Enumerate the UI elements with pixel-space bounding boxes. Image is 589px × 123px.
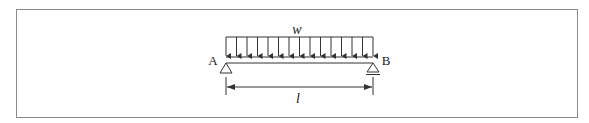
distributed-load	[226, 37, 373, 56]
load-arrows	[226, 37, 373, 56]
support-label-b: B	[382, 53, 391, 68]
load-label: w	[292, 22, 302, 37]
pin-support-icon	[220, 63, 232, 73]
beam	[226, 57, 373, 63]
roller-support-icon	[366, 63, 380, 75]
beam-diagram: w A B l	[0, 0, 589, 123]
span-label: l	[296, 91, 300, 106]
support-label-a: A	[208, 53, 218, 68]
